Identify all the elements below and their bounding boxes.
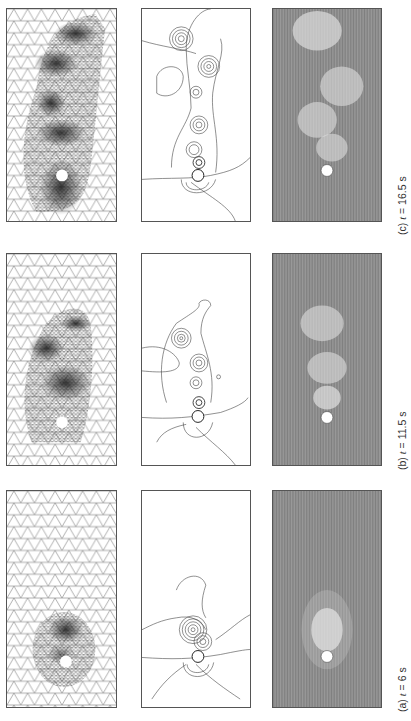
caption-a: (a) t = 6 s [396,667,408,712]
caption-b: (b) t = 11.5 s [396,412,408,471]
vorticity-contour-plot [142,254,250,465]
cylinder-icon [321,165,333,177]
vorticity-contour-plot [142,491,250,707]
adaptive-mesh-plot [7,9,116,221]
vorticity-panel-c [141,8,251,222]
mesh-panel-a [6,490,117,708]
mesh-panel-b [6,253,117,466]
cylinder-icon [321,412,333,424]
caption-label: (b) [396,457,408,470]
vorticity-panel-a [141,490,251,708]
cylinder-icon [56,416,68,428]
adaptive-mesh-plot [7,491,116,707]
cylinder-icon [192,651,204,663]
adaptive-mesh-plot [7,254,116,465]
caption-label: (c) [396,223,408,235]
caption-eq: = [396,442,408,448]
caption-var: t [397,451,408,454]
cylinder-icon [192,411,204,423]
streamline-panel-c [272,8,382,222]
cylinder-icon [321,651,333,663]
caption-value: 16.5 s [396,176,408,205]
caption-var: t [397,693,408,696]
caption-label: (a) [396,699,408,712]
cylinder-icon [60,655,72,667]
caption-value: 11.5 s [396,412,408,440]
caption-var: t [397,217,408,220]
streamline-plot [273,9,381,221]
streamline-panel-b [272,253,382,466]
streamline-panel-a [272,490,382,708]
streamline-plot [273,491,381,707]
vorticity-panel-b [141,253,251,466]
caption-value: 6 s [396,667,408,681]
cylinder-icon [192,169,204,181]
streamline-plot [273,254,381,465]
caption-eq: = [396,208,408,214]
cylinder-icon [56,169,68,181]
caption-eq: = [396,684,408,690]
vorticity-contour-plot [142,9,250,221]
mesh-panel-c [6,8,117,222]
caption-c: (c) t = 16.5 s [396,176,408,235]
